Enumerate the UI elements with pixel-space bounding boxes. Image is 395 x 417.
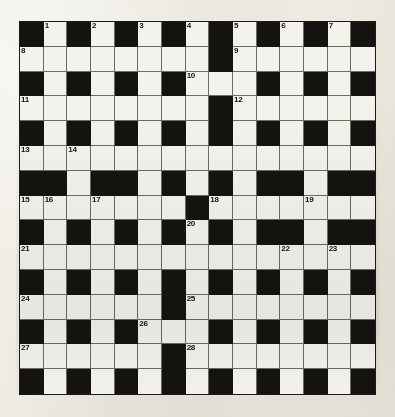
grid-cell[interactable] <box>304 344 328 369</box>
grid-cell[interactable] <box>233 196 257 221</box>
crossword-grid[interactable]: 1234567891011121314151617181920212223242… <box>19 21 376 395</box>
grid-cell[interactable] <box>328 96 352 121</box>
grid-cell[interactable] <box>280 320 304 345</box>
grid-cell[interactable] <box>162 146 186 171</box>
grid-cell[interactable] <box>91 320 115 345</box>
grid-cell[interactable] <box>328 344 352 369</box>
grid-cell[interactable] <box>351 295 375 320</box>
grid-cell[interactable] <box>138 245 162 270</box>
grid-cell[interactable] <box>257 96 281 121</box>
grid-cell[interactable]: 8 <box>20 47 44 72</box>
grid-cell[interactable] <box>351 196 375 221</box>
grid-cell[interactable] <box>115 146 139 171</box>
grid-cell[interactable] <box>304 96 328 121</box>
grid-cell[interactable] <box>304 146 328 171</box>
grid-cell[interactable]: 22 <box>280 245 304 270</box>
grid-cell[interactable] <box>186 245 210 270</box>
grid-cell[interactable] <box>280 96 304 121</box>
grid-cell[interactable] <box>67 196 91 221</box>
grid-cell[interactable] <box>138 220 162 245</box>
grid-cell[interactable] <box>233 146 257 171</box>
grid-cell[interactable] <box>233 369 257 394</box>
grid-cell[interactable] <box>186 96 210 121</box>
grid-cell[interactable] <box>257 146 281 171</box>
grid-cell[interactable] <box>351 344 375 369</box>
grid-cell[interactable] <box>91 146 115 171</box>
grid-cell[interactable] <box>138 146 162 171</box>
grid-cell[interactable] <box>186 121 210 146</box>
grid-cell[interactable] <box>91 295 115 320</box>
grid-cell[interactable] <box>280 121 304 146</box>
grid-cell[interactable] <box>115 196 139 221</box>
grid-cell[interactable] <box>304 295 328 320</box>
grid-cell[interactable]: 27 <box>20 344 44 369</box>
grid-cell[interactable] <box>328 121 352 146</box>
grid-cell[interactable]: 24 <box>20 295 44 320</box>
grid-cell[interactable]: 7 <box>328 22 352 47</box>
grid-cell[interactable] <box>304 47 328 72</box>
grid-cell[interactable] <box>138 295 162 320</box>
grid-cell[interactable] <box>304 220 328 245</box>
grid-cell[interactable]: 9 <box>233 47 257 72</box>
grid-cell[interactable] <box>351 245 375 270</box>
grid-cell[interactable] <box>328 295 352 320</box>
grid-cell[interactable] <box>44 369 68 394</box>
grid-cell[interactable]: 20 <box>186 220 210 245</box>
grid-cell[interactable] <box>280 196 304 221</box>
grid-cell[interactable] <box>257 47 281 72</box>
grid-cell[interactable] <box>138 171 162 196</box>
grid-cell[interactable] <box>328 369 352 394</box>
grid-cell[interactable] <box>186 171 210 196</box>
grid-cell[interactable]: 16 <box>44 196 68 221</box>
grid-cell[interactable] <box>91 245 115 270</box>
grid-cell[interactable]: 10 <box>186 72 210 97</box>
grid-cell[interactable] <box>280 270 304 295</box>
grid-cell[interactable] <box>186 270 210 295</box>
grid-cell[interactable] <box>233 245 257 270</box>
grid-cell[interactable] <box>328 47 352 72</box>
grid-cell[interactable]: 14 <box>67 146 91 171</box>
grid-cell[interactable] <box>233 295 257 320</box>
grid-cell[interactable] <box>138 96 162 121</box>
grid-cell[interactable]: 6 <box>280 22 304 47</box>
grid-cell[interactable] <box>44 121 68 146</box>
grid-cell[interactable] <box>233 320 257 345</box>
grid-cell[interactable] <box>91 72 115 97</box>
grid-cell[interactable] <box>233 220 257 245</box>
grid-cell[interactable]: 28 <box>186 344 210 369</box>
grid-cell[interactable] <box>328 72 352 97</box>
grid-cell[interactable]: 17 <box>91 196 115 221</box>
grid-cell[interactable] <box>115 96 139 121</box>
grid-cell[interactable] <box>138 369 162 394</box>
grid-cell[interactable] <box>351 47 375 72</box>
grid-cell[interactable]: 26 <box>138 320 162 345</box>
grid-cell[interactable] <box>162 47 186 72</box>
grid-cell[interactable]: 21 <box>20 245 44 270</box>
grid-cell[interactable] <box>304 171 328 196</box>
grid-cell[interactable] <box>162 96 186 121</box>
grid-cell[interactable] <box>44 96 68 121</box>
grid-cell[interactable] <box>186 47 210 72</box>
grid-cell[interactable] <box>138 344 162 369</box>
grid-cell[interactable] <box>233 121 257 146</box>
grid-cell[interactable] <box>91 369 115 394</box>
grid-cell[interactable] <box>91 220 115 245</box>
grid-cell[interactable] <box>257 344 281 369</box>
grid-cell[interactable]: 3 <box>138 22 162 47</box>
grid-cell[interactable] <box>138 196 162 221</box>
grid-cell[interactable]: 12 <box>233 96 257 121</box>
grid-cell[interactable]: 2 <box>91 22 115 47</box>
grid-cell[interactable] <box>44 245 68 270</box>
grid-cell[interactable] <box>257 245 281 270</box>
grid-cell[interactable] <box>162 196 186 221</box>
grid-cell[interactable] <box>209 146 233 171</box>
grid-cell[interactable] <box>233 270 257 295</box>
grid-cell[interactable] <box>91 96 115 121</box>
grid-cell[interactable] <box>162 320 186 345</box>
grid-cell[interactable]: 4 <box>186 22 210 47</box>
grid-cell[interactable] <box>233 344 257 369</box>
grid-cell[interactable] <box>328 320 352 345</box>
grid-cell[interactable]: 23 <box>328 245 352 270</box>
grid-cell[interactable] <box>67 245 91 270</box>
grid-cell[interactable] <box>91 47 115 72</box>
